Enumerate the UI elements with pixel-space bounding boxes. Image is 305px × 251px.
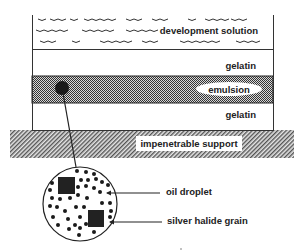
film-cross-section-diagram: impenetrable support development solutio… bbox=[0, 0, 305, 251]
gelatin-bottom-layer: gelatin bbox=[225, 109, 256, 120]
emulsion-layer: emulsion bbox=[32, 76, 273, 103]
gelatin-bottom-label: gelatin bbox=[225, 109, 256, 120]
gelatin-top-layer: gelatin bbox=[225, 60, 256, 71]
emulsion-label: emulsion bbox=[208, 84, 250, 95]
development-solution-layer: development solution bbox=[36, 19, 260, 43]
silver-halide-grain-label: silver halide grain bbox=[167, 215, 248, 226]
silver-halide-grain bbox=[88, 210, 104, 227]
emulsion-sample-dot bbox=[55, 81, 69, 95]
silver-halide-callout: silver halide grain bbox=[109, 215, 248, 226]
silver-halide-grain bbox=[58, 177, 75, 194]
oil-droplet-callout: oil droplet bbox=[106, 186, 213, 197]
magnified-emulsion-circle bbox=[43, 167, 117, 241]
support-layer: impenetrable support bbox=[10, 130, 294, 158]
support-label: impenetrable support bbox=[140, 138, 238, 149]
gelatin-top-label: gelatin bbox=[225, 60, 256, 71]
stray-mark bbox=[180, 248, 181, 249]
development-solution-label: development solution bbox=[160, 25, 258, 36]
oil-droplet-label: oil droplet bbox=[166, 186, 213, 197]
